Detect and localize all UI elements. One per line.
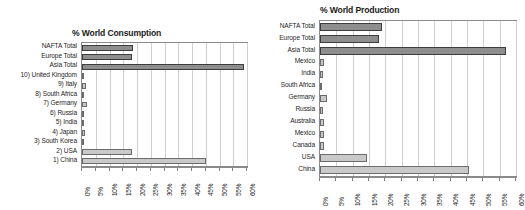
bar-9-italy: [82, 83, 86, 89]
category-label: 5) India: [56, 119, 77, 126]
x-tick-label: 15%: [371, 194, 378, 206]
bar-3-south-korea: [82, 139, 84, 145]
gridline: [137, 43, 138, 166]
x-tick-label: 0%: [84, 187, 91, 196]
x-tick: [450, 178, 451, 181]
x-tick: [384, 178, 385, 181]
x-tick: [368, 178, 369, 181]
category-label: 10) United Kingdom: [21, 72, 77, 79]
bar-europe-total: [320, 35, 379, 42]
category-label: Canada: [293, 142, 316, 149]
bar-india: [320, 71, 323, 78]
x-tick: [177, 168, 178, 171]
category-axis-consumption: NAFTA TotalEurope TotalAsia Total10) Uni…: [0, 42, 79, 167]
bar-asia-total: [82, 64, 244, 70]
x-tick: [205, 168, 206, 171]
x-axis-consumption: 0%5%10%15%20%25%30%35%40%45%50%55%60%: [81, 167, 248, 168]
gridline: [451, 21, 452, 176]
gridline: [385, 21, 386, 176]
plot-area-production: [319, 20, 517, 177]
x-tick-label: 60%: [518, 194, 525, 206]
x-tick: [164, 168, 165, 171]
category-label: Mexico: [295, 58, 315, 65]
category-label: USA: [302, 154, 315, 161]
x-tick-label: 25%: [152, 184, 159, 196]
x-tick: [150, 168, 151, 171]
gridline: [402, 21, 403, 176]
x-tick: [482, 178, 483, 181]
x-tick-label: 10%: [354, 194, 361, 206]
gridline: [123, 43, 124, 166]
category-label: 6) Russia: [50, 110, 77, 117]
gridline: [467, 21, 468, 176]
x-tick: [335, 178, 336, 181]
bar-china: [320, 166, 469, 173]
bar-1-china: [82, 158, 206, 164]
plot-area-consumption: [81, 42, 248, 167]
gridline: [418, 21, 419, 176]
x-tick: [352, 178, 353, 181]
category-label: Europe Total: [41, 53, 77, 60]
gridline: [192, 43, 193, 166]
x-tick-label: 15%: [125, 184, 132, 196]
x-tick-label: 5%: [338, 197, 345, 206]
x-tick-label: 20%: [139, 184, 146, 196]
gridline: [233, 43, 234, 166]
bar-5-india: [82, 120, 84, 126]
category-label: 2) USA: [56, 148, 77, 155]
bar-europe-total: [82, 54, 132, 60]
category-label: 8) South Africa: [35, 91, 77, 98]
bar-canada: [320, 142, 324, 149]
x-tick: [417, 178, 418, 181]
x-tick: [122, 168, 123, 171]
category-label: South Africa: [281, 82, 315, 89]
category-axis-production: NAFTA TotalEurope TotalAsia TotalMexicoI…: [262, 20, 317, 177]
category-label: Asia Total: [288, 47, 315, 54]
gridline: [151, 43, 152, 166]
bar-russia: [320, 107, 323, 114]
category-label: Europe Total: [279, 35, 315, 42]
category-label: Russia: [295, 106, 315, 113]
category-label: NAFTA Total: [280, 23, 315, 30]
x-tick-label: 45%: [469, 194, 476, 206]
x-tick-label: 45%: [207, 184, 214, 196]
x-tick: [246, 168, 247, 171]
x-tick-label: 30%: [420, 194, 427, 206]
chart-world-production: % World Production NAFTA TotalEurope Tot…: [262, 0, 521, 210]
gridline: [353, 21, 354, 176]
bar-10-united-kingdom: [82, 73, 84, 79]
bar-germany: [320, 95, 327, 102]
bar-2-usa: [82, 149, 132, 155]
bar-4-japan: [82, 130, 85, 136]
category-label: China: [298, 166, 315, 173]
x-tick-label: 35%: [180, 184, 187, 196]
bar-nafta-total: [82, 45, 133, 51]
category-label: Asia Total: [50, 62, 77, 69]
x-tick: [466, 178, 467, 181]
bar-8-south-africa: [82, 92, 84, 98]
x-tick: [319, 178, 320, 181]
x-tick: [219, 168, 220, 171]
x-tick-label: 35%: [436, 194, 443, 206]
x-tick: [515, 178, 516, 181]
gridline: [336, 21, 337, 176]
category-label: Mexico: [295, 130, 315, 137]
x-tick-label: 40%: [452, 194, 459, 206]
chart-world-consumption: % World Consumption NAFTA TotalEurope To…: [0, 22, 258, 210]
category-label: India: [301, 70, 315, 77]
x-tick-label: 10%: [111, 184, 118, 196]
x-tick: [81, 168, 82, 171]
gridline: [165, 43, 166, 166]
gridline: [110, 43, 111, 166]
x-tick-label: 20%: [387, 194, 394, 206]
category-label: 1) China: [53, 157, 77, 164]
bar-usa: [320, 154, 367, 161]
x-axis-production: 0%5%10%15%20%25%30%35%40%45%50%55%60%: [319, 177, 517, 178]
x-tick-label: 50%: [221, 184, 228, 196]
bar-australia: [320, 119, 324, 126]
bar-asia-total: [320, 47, 506, 54]
x-tick-label: 5%: [97, 187, 104, 196]
gridline: [500, 21, 501, 176]
category-label: Australia: [290, 118, 315, 125]
